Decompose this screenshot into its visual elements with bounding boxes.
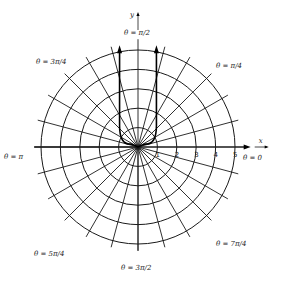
angle-label-t90: θ = π/2	[124, 29, 150, 37]
x-axis-label: x	[259, 137, 263, 145]
grid-ray	[111, 47, 138, 147]
grid-ray	[38, 120, 138, 147]
x-dir-arrow-icon	[265, 145, 269, 148]
grid-ray	[86, 147, 138, 237]
curve-arrow-left-icon	[117, 45, 122, 53]
grid-ray	[138, 120, 238, 147]
x-tick-label: 5	[233, 151, 237, 159]
grid-ray	[138, 95, 228, 147]
grid-ray	[138, 57, 190, 147]
x-tick-label: 3	[194, 151, 198, 159]
x-tick-label: 1	[155, 151, 159, 159]
angle-label-t0: θ = 0	[243, 154, 263, 162]
polar-grid-diagram: 12345xyθ = 0θ = π/4θ = π/2θ = 3π/4θ = πθ…	[0, 0, 283, 285]
grid-ray	[86, 57, 138, 147]
angle-label-t225: θ = 5π/4	[34, 250, 64, 258]
angle-label-t270: θ = 3π/2	[121, 264, 152, 272]
angle-label-t180: θ = π	[4, 153, 24, 161]
polar-grid	[34, 12, 268, 251]
curve-arrow-right-icon	[154, 45, 159, 53]
x-axis-arrow-icon	[244, 145, 251, 150]
grid-ray	[48, 147, 138, 199]
grid-ray	[111, 147, 138, 247]
grid-ray	[138, 47, 165, 147]
angle-label-t45: θ = π/4	[216, 62, 242, 70]
grid-ray	[138, 147, 190, 237]
grid-ray	[38, 147, 138, 174]
angle-label-t315: θ = 7π/4	[216, 240, 246, 248]
angle-label-t135: θ = 3π/4	[36, 58, 66, 66]
grid-ray	[48, 95, 138, 147]
grid-ray	[138, 147, 165, 247]
y-dir-arrow-icon	[136, 12, 139, 16]
y-axis-label: y	[129, 11, 135, 19]
x-tick-label: 4	[214, 151, 219, 159]
x-tick-label: 2	[175, 151, 179, 159]
grid-ray	[138, 147, 238, 174]
